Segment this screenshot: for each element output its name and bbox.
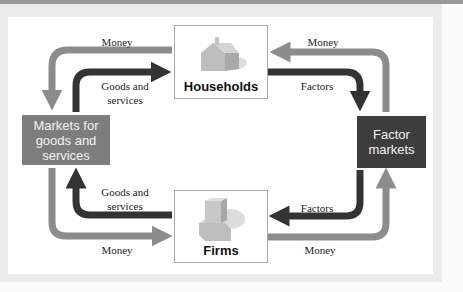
goods-market-label-line-1: Markets for bbox=[33, 118, 98, 133]
label-goods-bottom-left-line-1: Goods and bbox=[95, 185, 155, 199]
households-label: Households bbox=[184, 79, 258, 94]
label-goods-bottom-left: Goods and services bbox=[95, 185, 155, 213]
firms-box: Firms bbox=[174, 190, 268, 263]
label-factors-bottom-right: Factors bbox=[292, 201, 342, 215]
label-money-top-right: Money bbox=[298, 35, 348, 49]
factory-building-icon bbox=[191, 195, 251, 243]
goods-market-label-line-2: goods and bbox=[36, 133, 97, 148]
goods-market-label-line-3: services bbox=[42, 148, 90, 163]
label-money-bottom-right: Money bbox=[295, 243, 345, 257]
label-money-bottom-left: Money bbox=[92, 243, 142, 257]
factor-market-label-line-1: Factor bbox=[373, 127, 410, 142]
factor-market-box: Factor markets bbox=[357, 116, 426, 168]
households-box: Households bbox=[174, 25, 268, 99]
goods-services-market-box: Markets for goods and services bbox=[22, 115, 110, 165]
label-money-top-left: Money bbox=[92, 35, 142, 49]
firms-label: Firms bbox=[203, 243, 238, 258]
label-goods-bottom-left-line-2: services bbox=[95, 199, 155, 213]
label-goods-top-left-line-1: Goods and bbox=[95, 79, 155, 93]
factor-market-label-line-2: markets bbox=[368, 142, 414, 157]
label-goods-top-left: Goods and services bbox=[95, 79, 155, 107]
label-goods-top-left-line-2: services bbox=[95, 93, 155, 107]
house-icon bbox=[191, 35, 251, 79]
label-factors-top-right: Factors bbox=[292, 79, 342, 93]
